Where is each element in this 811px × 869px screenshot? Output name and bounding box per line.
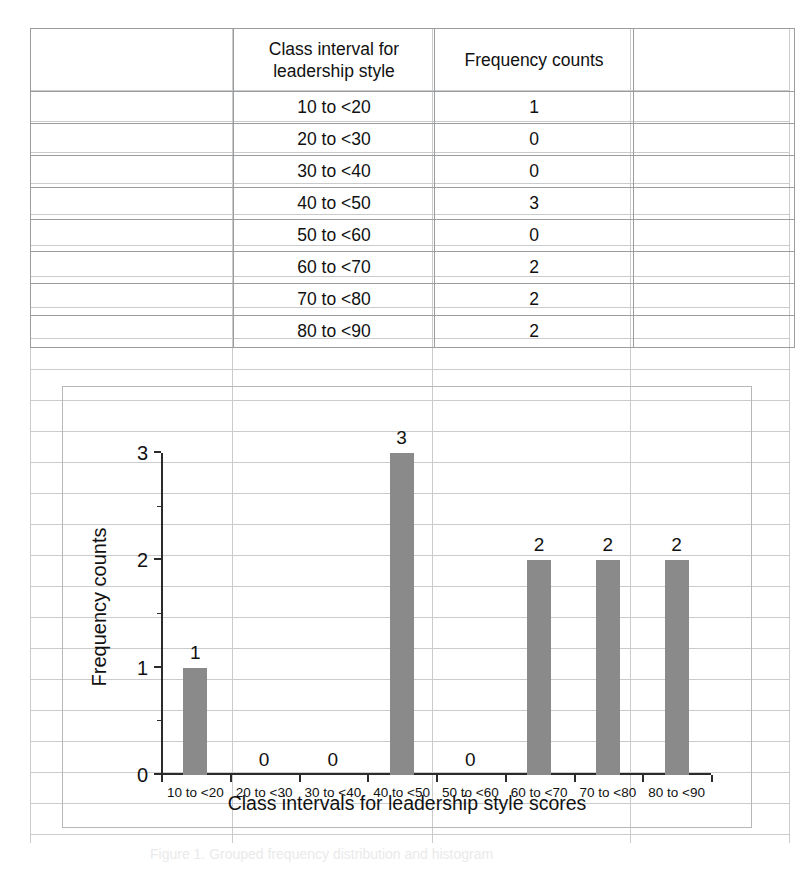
table-cell-class-interval: 80 to <90 bbox=[234, 316, 435, 348]
figure-caption: Figure 1. Grouped frequency distribution… bbox=[150, 846, 493, 862]
table-cell-class-interval: 70 to <80 bbox=[234, 284, 435, 316]
chart-x-tick bbox=[367, 775, 369, 782]
table-row: 70 to <802 bbox=[31, 284, 795, 316]
table-cell-blank-left bbox=[31, 188, 234, 220]
chart-x-axis-title: Class intervals for leadership style sco… bbox=[63, 792, 751, 815]
table-cell-blank-right bbox=[634, 188, 795, 220]
gridline-row bbox=[30, 834, 790, 835]
chart-y-minor-tick bbox=[157, 506, 161, 507]
chart-y-tick: 0 bbox=[154, 773, 161, 775]
table-header-class-interval-line1: Class interval for bbox=[234, 38, 434, 60]
table-row: 80 to <902 bbox=[31, 316, 795, 348]
table-cell-blank-left bbox=[31, 316, 234, 348]
table-cell-frequency: 2 bbox=[435, 252, 634, 284]
chart-y-tick-label: 2 bbox=[137, 549, 148, 572]
chart-x-tick bbox=[436, 775, 438, 782]
table-row: 60 to <702 bbox=[31, 252, 795, 284]
chart-x-tick bbox=[230, 775, 232, 782]
chart-y-tick-label: 1 bbox=[137, 656, 148, 679]
table-row: 30 to <400 bbox=[31, 156, 795, 188]
chart-bar-value-label: 0 bbox=[465, 749, 476, 771]
table-cell-blank-right bbox=[634, 252, 795, 284]
table-cell-class-interval: 40 to <50 bbox=[234, 188, 435, 220]
table-cell-blank-left bbox=[31, 124, 234, 156]
chart-bar-value-label: 0 bbox=[328, 749, 339, 771]
spreadsheet-sheet: Class interval for leadership style Freq… bbox=[30, 28, 790, 843]
chart-x-tick bbox=[161, 775, 163, 782]
chart-bar bbox=[527, 560, 551, 775]
table-header-class-interval: Class interval for leadership style bbox=[234, 29, 435, 92]
table-cell-blank-left bbox=[31, 156, 234, 188]
table-header-blank-left bbox=[31, 29, 234, 92]
table-cell-frequency: 0 bbox=[435, 220, 634, 252]
table-cell-blank-right bbox=[634, 284, 795, 316]
table-cell-frequency: 1 bbox=[435, 92, 634, 124]
chart-y-minor-tick bbox=[157, 613, 161, 614]
table-header-frequency-counts: Frequency counts bbox=[435, 29, 634, 92]
chart-y-axis-line bbox=[161, 453, 163, 775]
table-row: 50 to <600 bbox=[31, 220, 795, 252]
chart-y-tick-label: 0 bbox=[137, 764, 148, 787]
chart-bar-value-label: 2 bbox=[671, 534, 682, 556]
chart-bar bbox=[390, 453, 414, 775]
chart-y-axis-title: Frequency counts bbox=[88, 528, 111, 687]
chart-bar bbox=[665, 560, 689, 775]
chart-y-tick-label: 3 bbox=[137, 442, 148, 465]
table-cell-frequency: 3 bbox=[435, 188, 634, 220]
chart-bar bbox=[596, 560, 620, 775]
frequency-distribution-table: Class interval for leadership style Freq… bbox=[30, 28, 795, 348]
table-cell-blank-left bbox=[31, 252, 234, 284]
chart-bar-value-label: 1 bbox=[190, 642, 201, 664]
chart-bar-value-label: 0 bbox=[259, 749, 270, 771]
table-header-blank-right bbox=[634, 29, 795, 92]
chart-x-tick bbox=[642, 775, 644, 782]
table-cell-blank-right bbox=[634, 92, 795, 124]
chart-plot-area: 0123 10030222 10 to <2020 to <3030 to <4… bbox=[161, 453, 711, 775]
chart-x-tick bbox=[574, 775, 576, 782]
chart-x-tick bbox=[505, 775, 507, 782]
table-cell-blank-right bbox=[634, 220, 795, 252]
table-cell-frequency: 2 bbox=[435, 284, 634, 316]
table-cell-class-interval: 50 to <60 bbox=[234, 220, 435, 252]
chart-y-minor-tick bbox=[157, 720, 161, 721]
chart-bar-value-label: 2 bbox=[534, 534, 545, 556]
table-row: 20 to <300 bbox=[31, 124, 795, 156]
table-header-row: Class interval for leadership style Freq… bbox=[31, 29, 795, 92]
table-body: 10 to <20120 to <30030 to <40040 to <503… bbox=[31, 92, 795, 348]
table-cell-blank-right bbox=[634, 316, 795, 348]
table-cell-class-interval: 60 to <70 bbox=[234, 252, 435, 284]
table-cell-blank-right bbox=[634, 124, 795, 156]
chart-x-tick bbox=[711, 775, 713, 782]
table-cell-blank-left bbox=[31, 220, 234, 252]
table-cell-class-interval: 30 to <40 bbox=[234, 156, 435, 188]
histogram-chart: Frequency counts 0123 10030222 10 to <20… bbox=[62, 386, 752, 828]
table-cell-frequency: 2 bbox=[435, 316, 634, 348]
table-cell-frequency: 0 bbox=[435, 124, 634, 156]
table-cell-blank-right bbox=[634, 156, 795, 188]
table-cell-class-interval: 10 to <20 bbox=[234, 92, 435, 124]
gridline-row bbox=[30, 369, 790, 370]
chart-bar-value-label: 2 bbox=[603, 534, 614, 556]
chart-y-tick: 1 bbox=[154, 666, 161, 668]
chart-y-tick: 2 bbox=[154, 558, 161, 560]
chart-y-tick: 3 bbox=[154, 451, 161, 453]
chart-x-tick bbox=[299, 775, 301, 782]
table-cell-frequency: 0 bbox=[435, 156, 634, 188]
chart-bar bbox=[183, 668, 207, 775]
chart-bar-value-label: 3 bbox=[396, 427, 407, 449]
table-cell-class-interval: 20 to <30 bbox=[234, 124, 435, 156]
table-row: 40 to <503 bbox=[31, 188, 795, 220]
table-cell-blank-left bbox=[31, 284, 234, 316]
table-cell-blank-left bbox=[31, 92, 234, 124]
table-row: 10 to <201 bbox=[31, 92, 795, 124]
table-header-class-interval-line2: leadership style bbox=[234, 60, 434, 82]
